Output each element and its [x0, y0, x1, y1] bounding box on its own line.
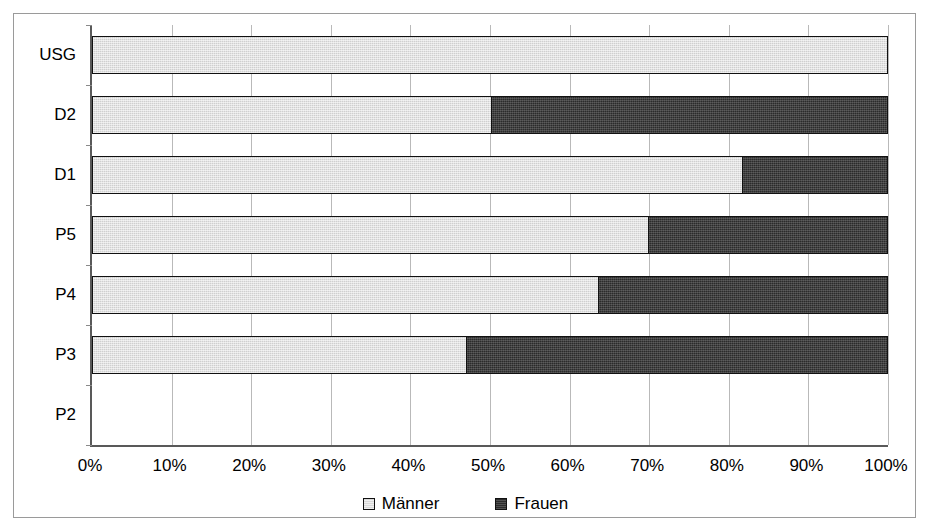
category-label-d1: D1	[54, 145, 76, 205]
bar-segment-frauen-p3	[466, 336, 888, 374]
bar-segment-frauen-d2	[491, 96, 888, 134]
legend-swatch-icon-frauen	[495, 498, 507, 510]
bar-row-d1	[92, 145, 888, 205]
plot-area	[90, 25, 888, 447]
bar-stack	[92, 216, 888, 254]
value-axis-label-30pct: 30%	[312, 456, 346, 476]
value-axis-label-80pct: 80%	[710, 456, 744, 476]
bar-row-p2	[92, 385, 888, 445]
bar-row-p3	[92, 325, 888, 385]
value-axis-label-10pct: 10%	[153, 456, 187, 476]
bar-segment-maenner-p3	[92, 336, 468, 374]
value-axis-label-50pct: 50%	[471, 456, 505, 476]
category-tick	[86, 445, 92, 446]
bar-segment-maenner-p5	[92, 216, 649, 254]
legend-label: Männer	[382, 494, 440, 514]
category-label-p2: P2	[55, 385, 76, 445]
bar-row-p4	[92, 265, 888, 325]
bar-stack	[92, 36, 888, 74]
bar-segment-maenner-p4	[92, 276, 600, 314]
bar-segment-maenner-d1	[92, 156, 743, 194]
category-label-p5: P5	[55, 205, 76, 265]
value-axis-label-40pct: 40%	[391, 456, 425, 476]
category-axis: USGD2D1P5P4P3P2	[14, 25, 84, 445]
legend-label: Frauen	[514, 494, 568, 514]
value-axis-label-100pct: 100%	[864, 456, 907, 476]
value-axis-label-0pct: 0%	[78, 456, 103, 476]
stacked-bar-chart-figure: USGD2D1P5P4P3P2 0%10%20%30%40%50%60%70%8…	[13, 13, 916, 518]
plot-wrapper: USGD2D1P5P4P3P2	[14, 14, 917, 451]
bar-stack	[92, 156, 888, 194]
bar-stack	[92, 336, 888, 374]
value-axis: 0%10%20%30%40%50%60%70%80%90%100%	[90, 456, 886, 482]
value-axis-label-90pct: 90%	[789, 456, 823, 476]
value-axis-label-20pct: 20%	[232, 456, 266, 476]
bar-row-p5	[92, 205, 888, 265]
gridline-100pct	[888, 25, 889, 445]
bar-segment-frauen-p5	[648, 216, 888, 254]
value-axis-label-70pct: 70%	[630, 456, 664, 476]
category-label-p4: P4	[55, 265, 76, 325]
category-label-usg: USG	[39, 25, 76, 85]
bar-segment-frauen-p4	[598, 276, 888, 314]
bar-row-d2	[92, 85, 888, 145]
legend-swatch-icon-maenner	[363, 498, 375, 510]
bar-stack	[92, 396, 888, 434]
bar-stack	[92, 276, 888, 314]
bar-stack	[92, 96, 888, 134]
bar-segment-maenner-usg	[92, 36, 888, 74]
bar-segment-maenner-d2	[92, 96, 492, 134]
bar-segment-frauen-d1	[742, 156, 888, 194]
legend-entry-frauen[interactable]: Frauen	[495, 494, 568, 514]
legend-entry-maenner[interactable]: Männer	[363, 494, 440, 514]
bar-row-usg	[92, 25, 888, 85]
category-label-d2: D2	[54, 85, 76, 145]
category-label-p3: P3	[55, 325, 76, 385]
chart-legend: MännerFrauen	[14, 490, 917, 518]
value-axis-label-60pct: 60%	[551, 456, 585, 476]
